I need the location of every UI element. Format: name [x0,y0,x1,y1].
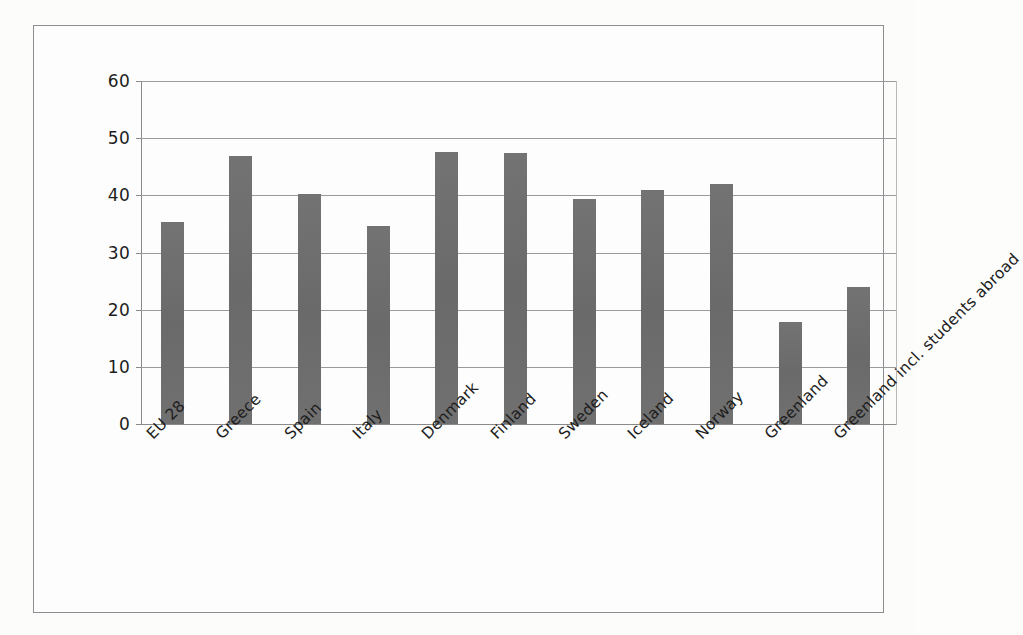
bar [573,199,596,424]
gridline [141,81,896,82]
y-axis-tick-mark [136,424,141,425]
y-axis-tick-mark [136,253,141,254]
y-axis-tick-label: 40 [108,185,130,205]
y-axis-tick-label: 30 [108,243,130,263]
y-axis-tick-mark [136,310,141,311]
y-axis-tick-mark [136,138,141,139]
bar [641,190,664,424]
bar [435,152,458,424]
bar [504,153,527,424]
y-axis-tick-label: 0 [119,414,130,434]
y-axis-tick-mark [136,81,141,82]
bar [229,156,252,424]
y-axis-tick-label: 60 [108,71,130,91]
y-axis-tick-label: 20 [108,300,130,320]
plot-area: 6050403020100 [141,81,896,424]
gridline [141,138,896,139]
y-axis-tick-label: 50 [108,128,130,148]
bar [161,222,184,424]
y-axis-tick-mark [136,195,141,196]
y-axis-tick-label: 10 [108,357,130,377]
bar [710,184,733,424]
figure-frame: 6050403020100 EU 28GreeceSpainItalyDenma… [33,25,884,613]
bar [298,194,321,424]
y-axis-tick-mark [136,367,141,368]
bar [367,226,390,424]
